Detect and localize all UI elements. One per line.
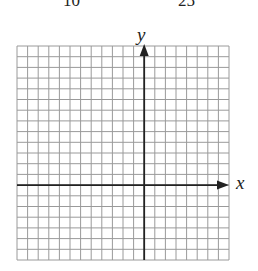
x-axis-arrow-icon xyxy=(217,181,229,190)
coordinate-grid xyxy=(0,0,258,271)
x-axis-label: x xyxy=(236,172,244,194)
y-axis-label: y xyxy=(137,24,145,46)
